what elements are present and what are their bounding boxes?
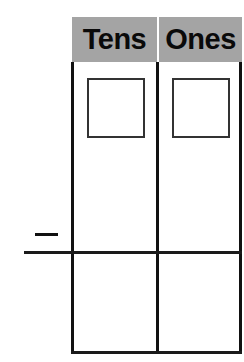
header-ones: Ones (159, 17, 242, 62)
minus-sign-icon (35, 233, 58, 236)
tens-answer-cell[interactable] (74, 254, 156, 351)
ones-answer-cell[interactable] (159, 254, 239, 351)
header-tens: Tens (72, 17, 157, 62)
tens-digit-box[interactable] (87, 78, 145, 138)
header-tens-label: Tens (83, 23, 147, 56)
right-border-line (239, 62, 242, 354)
header-ones-label: Ones (165, 23, 236, 56)
bottom-border-line (71, 351, 242, 354)
ones-digit-box[interactable] (172, 78, 230, 138)
